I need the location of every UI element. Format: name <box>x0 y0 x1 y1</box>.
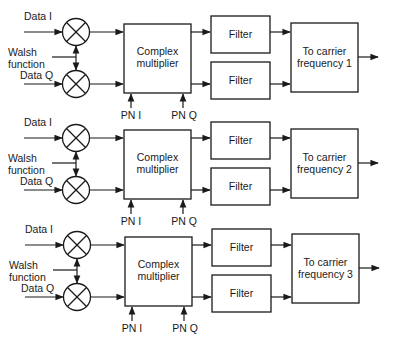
multiplier-label-line1: Complex <box>137 45 179 57</box>
walsh-label-line1: Walsh <box>9 259 38 271</box>
walsh-label-line1: Walsh <box>8 152 37 164</box>
pn-i-label: PN I <box>122 322 142 334</box>
filter-bottom-label: Filter <box>230 287 254 299</box>
data-i-label: Data I <box>25 223 53 235</box>
mixer-i-icon <box>64 232 91 259</box>
mixer-i-icon <box>63 125 90 152</box>
pn-q-label: PN Q <box>171 215 197 227</box>
transmitter-row-3: Data I Walsh function Data Q Complex mul… <box>9 223 379 334</box>
pn-i-label: PN I <box>121 215 141 227</box>
transmitter-row-2: Data I Walsh function Data Q Complex mul… <box>8 116 378 227</box>
pn-q-label: PN Q <box>172 322 198 334</box>
data-i-label: Data I <box>24 10 52 22</box>
mixer-i-icon <box>63 19 90 46</box>
pn-i-label: PN I <box>121 109 141 121</box>
walsh-label-line1: Walsh <box>8 46 37 58</box>
mixer-q-icon <box>63 177 90 204</box>
carrier-label-line1: To carrier <box>303 151 347 163</box>
mixer-q-icon <box>64 284 91 311</box>
carrier-label-line1: To carrier <box>303 45 347 57</box>
filter-bottom-label: Filter <box>229 180 253 192</box>
block-diagram: Data I Walsh function Data Q Complex mul… <box>0 0 394 349</box>
multiplier-label-line2: multiplier <box>136 163 179 175</box>
multiplier-label-line2: multiplier <box>136 57 179 69</box>
carrier-label-line2: frequency 1 <box>297 57 352 69</box>
pn-q-label: PN Q <box>171 109 197 121</box>
mixer-q-icon <box>63 71 90 98</box>
transmitter-row-1: Data I Walsh function Data Q Complex mul… <box>8 10 378 121</box>
filter-top-label: Filter <box>230 241 254 253</box>
data-i-label: Data I <box>24 116 52 128</box>
multiplier-label-line1: Complex <box>138 258 180 270</box>
filter-top-label: Filter <box>229 134 253 146</box>
carrier-label-line2: frequency 2 <box>297 163 352 175</box>
filter-top-label: Filter <box>229 28 253 40</box>
filter-bottom-label: Filter <box>229 74 253 86</box>
data-q-label: Data Q <box>20 69 53 81</box>
data-q-label: Data Q <box>20 175 53 187</box>
multiplier-label-line1: Complex <box>137 151 179 163</box>
carrier-label-line2: frequency 3 <box>298 268 353 280</box>
multiplier-label-line2: multiplier <box>137 270 180 282</box>
data-q-label: Data Q <box>21 282 54 294</box>
carrier-label-line1: To carrier <box>304 256 348 268</box>
